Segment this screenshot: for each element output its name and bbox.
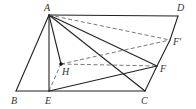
label-f-prime: F′	[172, 36, 182, 47]
segment-a-d	[49, 15, 178, 16]
label-a: A	[43, 2, 51, 13]
label-b: B	[11, 95, 17, 106]
segment-h-f_prime	[61, 40, 170, 64]
label-c: C	[141, 95, 148, 106]
label-f: F	[159, 63, 167, 74]
geometry-diagram: A B C D E F F′ H	[0, 0, 196, 109]
solid-lines	[16, 15, 178, 91]
dashed-lines	[49, 15, 170, 91]
segment-h-f	[61, 64, 157, 66]
segment-e-h	[49, 64, 61, 91]
label-d: D	[176, 2, 185, 13]
diagram-canvas: A B C D E F F′ H	[0, 0, 196, 109]
segment-f-c	[145, 66, 157, 91]
segment-b-a	[16, 15, 49, 91]
label-e: E	[44, 95, 51, 106]
segment-a-f_prime	[49, 15, 170, 40]
segment-a-h	[49, 15, 61, 64]
label-h: H	[61, 66, 70, 77]
